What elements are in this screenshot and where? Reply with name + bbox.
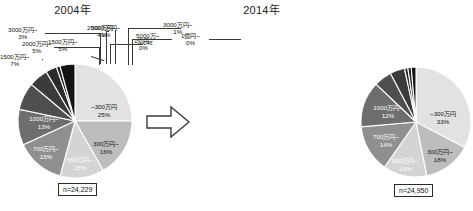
callout-1oku-name-2014: 1億円~	[181, 32, 200, 39]
callout-5000man-2014: 5000万~ 0%	[136, 32, 159, 47]
pie-label-300manup-name-2004: 300万円~	[93, 140, 119, 148]
sample-size-box-2014: n=24,950	[394, 184, 433, 197]
pie-label-300manup-pct-2004: 16%	[100, 148, 113, 155]
pie-svg-2004: ~300万円 25% 300万円~ 16% 500万円~ 15% 700万円~ …	[16, 62, 134, 180]
pie-chart-2014: ~300万円 33% 300万円~ 18% 500万円~ 13% 700万円~ …	[359, 65, 473, 179]
pie-label-300man-name-2014: ~300万円	[430, 110, 456, 118]
leader-line-5000man-v-2014	[132, 39, 133, 65]
callout-2000man-2014: 2000万円~ 4%	[87, 24, 116, 39]
chart-title-2014: 2014年	[177, 1, 346, 17]
callout-1oku-pct-2014: 0%	[181, 39, 200, 46]
pie-label-300man-pct-2004: 25%	[98, 111, 111, 118]
callout-3000man-name-2004: 3000万円~	[8, 26, 37, 33]
callout-5000man-pct-2014: 0%	[136, 39, 159, 46]
pie-label-300man-name-2004: ~300万円	[91, 103, 117, 111]
chart-title-2004: 2004年	[0, 1, 157, 17]
pie-svg-2014: ~300万円 33% 300万円~ 18% 500万円~ 13% 700万円~ …	[359, 65, 473, 179]
pie-label-500man-pct-2004: 15%	[74, 164, 87, 171]
pie-label-500man-name-2004: 500万円~	[67, 156, 93, 164]
chart-panel-2014: 2014年 2000万円~ 4% 1500万円~ 5% 3000万円~ 1% 5…	[169, 0, 338, 211]
pie-label-1000man-pct-2004: 13%	[38, 123, 51, 130]
leader-line-1500man	[42, 59, 43, 60]
pie-chart-2004: ~300万円 25% 300万円~ 16% 500万円~ 15% 700万円~ …	[16, 62, 134, 180]
leader-line-1oku-h-2014	[209, 39, 241, 40]
callout-2000man-pct-2014: 4%	[87, 31, 116, 38]
pie-label-500man-name-2014: 500万円~	[392, 157, 418, 165]
pie-label-700man-pct-2014: 14%	[380, 141, 393, 148]
pie-label-700man-name-2004: 700万円~	[33, 145, 59, 153]
pie-label-300manup-pct-2014: 18%	[434, 156, 447, 163]
callout-5000man-name-2014: 5000万~	[136, 32, 159, 39]
sample-size-box-2004: n=24,229	[58, 183, 97, 196]
callout-2000man-name-2014: 2000万円~	[87, 24, 116, 31]
pie-label-500man-pct-2014: 13%	[399, 165, 412, 172]
callout-1500man-name-2014: 1500万円~	[48, 38, 77, 45]
pie-label-1000man-name-2004: 1000万円~	[29, 115, 59, 123]
pie-label-700man-pct-2004: 15%	[40, 153, 53, 160]
callout-1500man-2014: 1500万円~ 5%	[48, 38, 77, 53]
pie-label-700man-name-2014: 700万円~	[373, 133, 399, 141]
callout-1500man-pct-2014: 5%	[48, 45, 77, 52]
pie-label-300man-pct-2014: 33%	[437, 118, 450, 125]
leader-line-1oku-v	[110, 44, 111, 64]
leader-line-3000man-v-2014	[128, 28, 129, 65]
pie-label-300manup-name-2014: 300万円~	[427, 148, 453, 156]
callout-3000man-name-2014: 3000万円~	[163, 21, 192, 28]
callout-3000man-2004: 3000万円~ 3%	[8, 26, 37, 41]
callout-1500man-name-2004: 1500万円~	[0, 53, 29, 60]
pie-label-1000man-pct-2014: 12%	[382, 112, 395, 119]
callout-1oku-2014: 1億円~ 0%	[181, 32, 200, 47]
pie-label-1000man-name-2014: 1000万円~	[373, 104, 403, 112]
callout-2000man-name-2004: 2000万円~	[22, 40, 51, 47]
